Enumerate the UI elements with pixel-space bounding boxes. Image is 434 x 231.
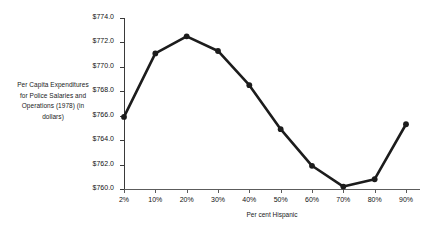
x-axis-tick [218, 189, 219, 193]
x-axis-tick [375, 189, 376, 193]
y-axis-tick-label: $760.0 [93, 184, 114, 191]
x-axis-tick [124, 189, 125, 193]
data-point-marker [278, 126, 284, 132]
y-axis-title: Per Capita Expenditures for Police Salar… [8, 80, 98, 122]
x-axis-tick [249, 189, 250, 193]
data-point-marker [340, 184, 346, 190]
data-point-marker [152, 51, 158, 57]
y-axis-tick-label: $762.0 [93, 160, 114, 167]
y-axis-tick-label: $764.0 [93, 135, 114, 142]
data-point-marker [184, 33, 190, 39]
y-axis-title-line-3: Operations (1978) (in [8, 101, 98, 112]
data-point-marker [215, 48, 221, 54]
y-axis-tick-label: $774.0 [93, 13, 114, 20]
data-point-marker [121, 114, 127, 120]
data-point-marker [403, 121, 409, 127]
data-point-marker [372, 176, 378, 182]
y-axis-title-line-4: dollars) [8, 112, 98, 123]
y-axis-title-line-1: Per Capita Expenditures [8, 80, 98, 91]
data-point-marker [309, 163, 315, 169]
plot-area: $774.0$772.0$770.0$768.0$766.0$764.0$762… [124, 18, 420, 189]
x-axis-tick-label: 90% [388, 196, 424, 203]
x-axis-tick [343, 189, 344, 193]
data-point-marker [246, 82, 252, 88]
x-axis-tick [187, 189, 188, 193]
chart-page: Per Capita Expenditures for Police Salar… [0, 0, 434, 231]
y-axis-tick-label: $770.0 [93, 62, 114, 69]
y-axis-title-line-2: for Police Salaries and [8, 91, 98, 102]
y-axis-tick-label: $772.0 [93, 37, 114, 44]
x-axis-tick [155, 189, 156, 193]
series-line [124, 36, 406, 186]
y-axis-tick-label: $768.0 [93, 86, 114, 93]
x-axis-tick [281, 189, 282, 193]
line-series [124, 18, 420, 189]
x-axis-tick [312, 189, 313, 193]
x-axis-tick [406, 189, 407, 193]
y-axis-tick-label: $766.0 [93, 111, 114, 118]
x-axis-title: Per cent Hispanic [124, 211, 420, 218]
